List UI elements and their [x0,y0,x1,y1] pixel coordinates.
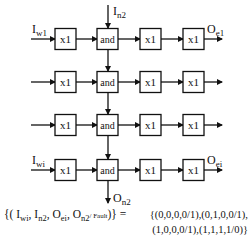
row-input-label: Iw1 [32,22,47,38]
cell-label: x1 [145,164,156,176]
cell-label: and [100,77,114,88]
row-input-label: Iwi [32,153,45,169]
formula-rhs-line2: (1,0,0,0/1),(1,1,1,1/0)} [152,224,248,236]
top-input-label: In2 [113,4,126,20]
cell-label: x1 [60,164,71,176]
cell-label: x1 [188,164,199,176]
cell-label: x1 [60,33,71,45]
bottom-output-label: On2 [113,191,131,207]
diagram-row: x1andx1x1 [31,115,222,136]
row-output-label: Oei [207,153,223,169]
cell-label: x1 [188,76,199,88]
cell-label: x1 [188,33,199,45]
formula-rhs-line1: {(0,0,0,0/1),(0,1,0,0/1), [150,209,248,221]
formula: {( Iwi, In2, Oei, On2/ Fault)} = {(0,0,0… [4,208,248,236]
cell-label: and [100,165,114,176]
cell-label: and [100,34,114,45]
cell-label: x1 [145,33,156,45]
diagram-row: x1andx1x1IwiOei [31,153,223,181]
formula-lhs: {( Iwi, In2, Oei, On2/ Fault)} = [4,208,126,223]
cell-label: x1 [145,76,156,88]
cell-label: x1 [60,119,71,131]
diagram-rows: x1andx1x1Iw1Oe1x1andx1x1x1andx1x1x1andx1… [31,22,224,181]
diagram-row: x1andx1x1 [31,72,222,93]
diagram-row: x1andx1x1Iw1Oe1 [31,22,224,50]
row-output-label: Oe1 [207,22,224,38]
cell-label: and [100,120,114,131]
cell-label: x1 [188,119,199,131]
cell-array-diagram: x1andx1x1Iw1Oe1x1andx1x1x1andx1x1x1andx1… [0,0,250,239]
cell-label: x1 [145,119,156,131]
cell-label: x1 [60,76,71,88]
